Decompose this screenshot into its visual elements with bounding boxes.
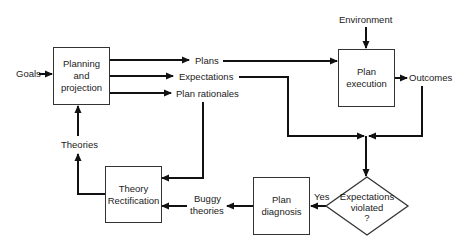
planning-line-1: Planning bbox=[61, 58, 102, 70]
rectification-to-theories-line bbox=[78, 154, 105, 194]
outcomes-label: Outcomes bbox=[409, 72, 452, 83]
theory-rectification-box: Theory Rectification bbox=[105, 166, 162, 223]
decision-line-1: Expectations bbox=[326, 192, 408, 203]
rectification-line-1: Theory bbox=[108, 183, 160, 195]
planning-line-3: projection bbox=[61, 82, 102, 94]
rationales-to-rectification-line bbox=[162, 102, 203, 178]
buggy-theories-label-1: Buggy bbox=[194, 193, 221, 204]
plans-label: Plans bbox=[195, 55, 219, 66]
diagnosis-line-2: diagnosis bbox=[261, 206, 301, 218]
goals-label: Goals bbox=[16, 68, 41, 79]
planning-line-2: and bbox=[61, 70, 102, 82]
theories-label: Theories bbox=[61, 139, 98, 150]
plan-execution-box: Plan execution bbox=[338, 49, 395, 107]
planning-and-projection-box: Planning and projection bbox=[53, 47, 110, 105]
yes-label: Yes bbox=[314, 191, 330, 202]
execution-line-1: Plan bbox=[346, 66, 387, 78]
decision-label: Expectations violated ? bbox=[326, 192, 408, 224]
decision-line-3: ? bbox=[326, 213, 408, 224]
execution-line-2: execution bbox=[346, 78, 387, 90]
environment-label: Environment bbox=[339, 14, 392, 25]
rectification-line-2: Rectification bbox=[108, 195, 160, 207]
expectations-label: Expectations bbox=[179, 71, 233, 82]
plan-diagnosis-box: Plan diagnosis bbox=[253, 177, 310, 235]
diagnosis-line-1: Plan bbox=[261, 194, 301, 206]
plan-rationales-label: Plan rationales bbox=[176, 88, 239, 99]
buggy-theories-label-2: theories bbox=[190, 205, 224, 216]
